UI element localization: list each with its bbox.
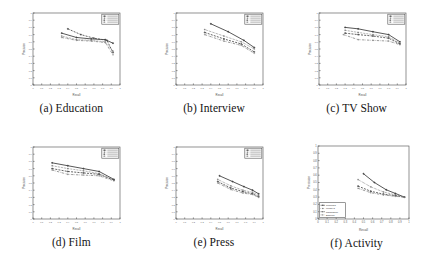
- svg-text:0.8: 0.8: [172, 26, 176, 28]
- svg-text:0.1: 0.1: [183, 221, 187, 223]
- panel-d: 00.10.20.30.40.50.60.70.80.9100.10.20.30…: [0, 134, 143, 268]
- svg-text:0.2: 0.2: [29, 70, 33, 72]
- svg-text:0.4: 0.4: [29, 189, 33, 191]
- svg-text:0.1: 0.1: [41, 87, 45, 89]
- svg-text:1: 1: [408, 220, 410, 224]
- caption-b: (b) Interview: [183, 102, 245, 114]
- svg-text:0.4: 0.4: [209, 87, 213, 89]
- svg-text:0: 0: [174, 218, 176, 220]
- plot-b-svg: 00.10.20.30.40.50.60.70.80.9100.10.20.30…: [161, 9, 267, 97]
- svg-text:0.2: 0.2: [335, 87, 339, 89]
- svg-text:0.4: 0.4: [313, 188, 317, 192]
- svg-text:0.2: 0.2: [172, 70, 176, 72]
- svg-text:0: 0: [316, 84, 318, 86]
- plot-d: 00.10.20.30.40.50.60.70.80.9100.10.20.30…: [18, 143, 124, 231]
- panel-e: 00.10.20.30.40.50.60.70.80.9100.10.20.30…: [143, 134, 286, 268]
- svg-text:0.1: 0.1: [172, 211, 176, 213]
- svg-text:1: 1: [315, 144, 317, 148]
- svg-text:0.6: 0.6: [172, 41, 176, 43]
- svg-text:0.8: 0.8: [172, 160, 176, 162]
- svg-text:0.3: 0.3: [29, 62, 33, 64]
- svg-text:0.4: 0.4: [172, 189, 176, 191]
- svg-text:0.5: 0.5: [218, 221, 222, 223]
- svg-text:0.4: 0.4: [172, 55, 176, 57]
- plot-a: 00.10.20.30.40.50.60.70.80.9100.10.20.30…: [18, 9, 124, 97]
- svg-text:0.6: 0.6: [227, 87, 231, 89]
- svg-text:0: 0: [318, 87, 320, 89]
- svg-text:0.9: 0.9: [395, 87, 399, 89]
- svg-text:0.5: 0.5: [313, 180, 317, 184]
- svg-text:0.7: 0.7: [314, 34, 318, 36]
- svg-text:0: 0: [175, 87, 177, 89]
- svg-text:0.6: 0.6: [84, 87, 88, 89]
- plot-a-svg: 00.10.20.30.40.50.60.70.80.9100.10.20.30…: [18, 9, 124, 97]
- svg-text:0.1: 0.1: [326, 87, 330, 89]
- svg-text:Precision: Precision: [22, 43, 26, 55]
- svg-text:0.3: 0.3: [58, 221, 62, 223]
- svg-text:Precision: Precision: [164, 43, 168, 55]
- svg-text:0.8: 0.8: [101, 221, 105, 223]
- svg-text:0.7: 0.7: [235, 221, 239, 223]
- svg-text:1: 1: [120, 221, 122, 223]
- svg-text:0.6: 0.6: [370, 220, 374, 224]
- svg-text:0.8: 0.8: [387, 87, 391, 89]
- svg-text:0.2: 0.2: [314, 70, 318, 72]
- svg-text:0: 0: [33, 87, 35, 89]
- svg-text:0.8: 0.8: [244, 87, 248, 89]
- svg-text:0.2: 0.2: [192, 221, 196, 223]
- svg-text:1: 1: [31, 12, 33, 14]
- svg-text:0.6: 0.6: [369, 87, 373, 89]
- svg-text:0.3: 0.3: [172, 196, 176, 198]
- svg-text:0.3: 0.3: [201, 87, 205, 89]
- svg-text:0.9: 0.9: [253, 221, 257, 223]
- svg-text:0.7: 0.7: [235, 87, 239, 89]
- svg-text:0.1: 0.1: [325, 220, 329, 224]
- svg-text:0.3: 0.3: [343, 220, 347, 224]
- svg-text:0.5: 0.5: [172, 182, 176, 184]
- svg-text:Precision: Precision: [164, 177, 168, 189]
- svg-text:0: 0: [174, 84, 176, 86]
- svg-text:0.8: 0.8: [244, 221, 248, 223]
- svg-text:0.5: 0.5: [75, 221, 79, 223]
- svg-text:0.1: 0.1: [41, 221, 45, 223]
- svg-text:0.4: 0.4: [352, 220, 356, 224]
- svg-text:0.7: 0.7: [313, 166, 317, 170]
- svg-text:0.5: 0.5: [361, 220, 365, 224]
- plot-f-svg: 00.10.20.30.40.50.60.70.80.9100.10.20.30…: [301, 142, 413, 232]
- svg-text:0.1: 0.1: [314, 77, 318, 79]
- svg-text:0.5: 0.5: [29, 48, 33, 50]
- svg-text:Ngram2016: Ngram2016: [326, 211, 339, 213]
- svg-text:Baseline: Baseline: [326, 214, 336, 216]
- svg-text:0.5: 0.5: [218, 87, 222, 89]
- plot-e-svg: 00.10.20.30.40.50.60.70.80.9100.10.20.30…: [161, 143, 267, 231]
- caption-c: (c) TV Show: [326, 102, 387, 114]
- svg-text:0.9: 0.9: [110, 221, 114, 223]
- svg-text:0.6: 0.6: [29, 41, 33, 43]
- svg-text:0.7: 0.7: [29, 34, 33, 36]
- svg-text:0.1: 0.1: [29, 77, 33, 79]
- svg-text:Recall: Recall: [73, 93, 81, 97]
- plot-d-svg: 00.10.20.30.40.50.60.70.80.9100.10.20.30…: [18, 143, 124, 231]
- svg-text:0.7: 0.7: [93, 87, 97, 89]
- svg-text:0.9: 0.9: [398, 220, 402, 224]
- svg-text:0.7: 0.7: [29, 168, 33, 170]
- svg-text:0.2: 0.2: [29, 204, 33, 206]
- svg-text:0.4: 0.4: [209, 221, 213, 223]
- svg-text:0.2: 0.2: [192, 87, 196, 89]
- svg-text:Recall: Recall: [359, 228, 368, 232]
- svg-text:0: 0: [31, 218, 33, 220]
- svg-text:0.7: 0.7: [93, 221, 97, 223]
- svg-text:0.3: 0.3: [172, 62, 176, 64]
- svg-text:1: 1: [31, 146, 33, 148]
- svg-text:Recall: Recall: [216, 93, 224, 97]
- svg-text:0.9: 0.9: [313, 151, 317, 155]
- svg-text:0: 0: [33, 221, 35, 223]
- plot-f: 00.10.20.30.40.50.60.70.80.9100.10.20.30…: [301, 142, 413, 232]
- svg-text:0.5: 0.5: [29, 182, 33, 184]
- svg-text:0.1: 0.1: [172, 77, 176, 79]
- svg-text:0.9: 0.9: [110, 87, 114, 89]
- panel-a: 00.10.20.30.40.50.60.70.80.9100.10.20.30…: [0, 0, 143, 134]
- panel-b: 00.10.20.30.40.50.60.70.80.9100.10.20.30…: [143, 0, 286, 134]
- svg-text:0.2: 0.2: [334, 220, 338, 224]
- svg-text:1: 1: [120, 87, 122, 89]
